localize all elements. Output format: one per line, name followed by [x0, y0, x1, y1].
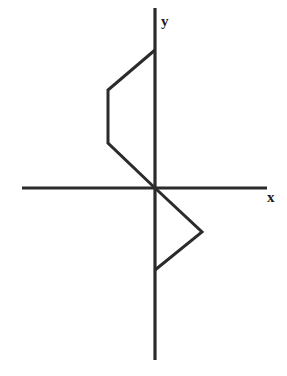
y-axis-label: y — [161, 14, 169, 29]
lower-right-triangle-path — [155, 188, 202, 270]
x-axis-label: x — [267, 190, 275, 205]
coordinate-plane-figure: y x — [0, 0, 287, 376]
upper-left-trapezoid-path — [108, 50, 155, 188]
figure-canvas — [0, 0, 287, 376]
